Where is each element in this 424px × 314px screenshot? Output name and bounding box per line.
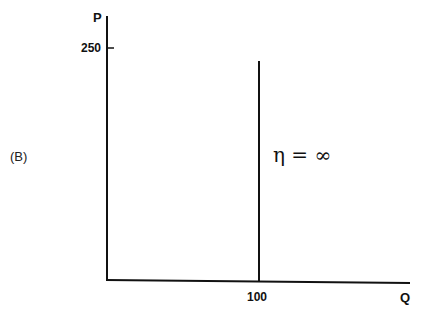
chart-canvas [0,0,424,314]
panel-label: (B) [10,149,27,164]
y-axis-label: P [93,10,102,25]
x-axis-label: Q [400,290,410,305]
y-tick-label: 250 [81,41,101,55]
elasticity-annotation: η = ∞ [273,143,331,167]
x-tick-label: 100 [247,290,267,304]
